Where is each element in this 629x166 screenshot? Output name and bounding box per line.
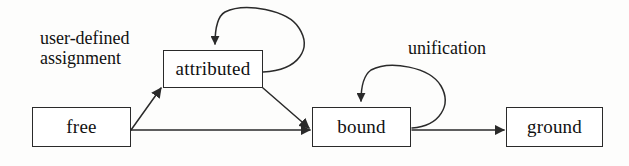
node-free: free [32, 107, 131, 147]
edge-label-unification: unification [408, 38, 486, 58]
state-transition-diagram: free attributed bound ground user-define… [0, 0, 629, 166]
node-ground: ground [506, 107, 603, 147]
edge-attributed-to-bound [263, 88, 309, 128]
node-attributed: attributed [163, 50, 263, 88]
edge-free-to-attributed [131, 88, 161, 130]
edge-label-user-defined-assignment: user-defined assignment [40, 28, 130, 68]
node-ground-label: ground [527, 117, 582, 138]
node-attributed-label: attributed [176, 59, 251, 80]
node-free-label: free [66, 117, 96, 138]
node-bound-label: bound [337, 117, 386, 138]
node-bound: bound [312, 107, 411, 147]
